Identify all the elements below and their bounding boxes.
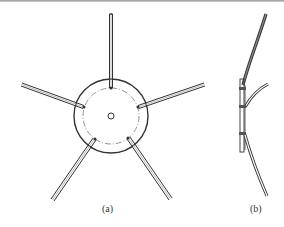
panel-b-label: (b) xyxy=(250,203,262,214)
arm-top xyxy=(110,14,113,88)
hub-outer-circle xyxy=(74,79,148,153)
arm-left xyxy=(21,83,84,109)
arm-right xyxy=(138,83,205,109)
center-hole xyxy=(108,113,114,119)
panel-a-drawing xyxy=(21,14,205,201)
panel-b-drawing xyxy=(239,14,268,196)
panel-a-label: (a) xyxy=(102,203,113,214)
pitch-circle xyxy=(83,88,139,144)
arm-lower-left xyxy=(51,138,96,201)
arm-lower-right xyxy=(127,137,172,200)
diagram-canvas xyxy=(0,0,284,227)
